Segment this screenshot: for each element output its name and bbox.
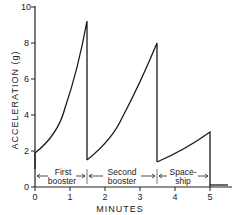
x-tick-label: 4 bbox=[172, 192, 177, 202]
x-tick-label: 0 bbox=[32, 192, 37, 202]
stage-label-second: booster bbox=[108, 176, 137, 186]
y-ticks: 0 2 4 6 8 10 bbox=[21, 2, 35, 192]
acceleration-curve bbox=[35, 21, 228, 187]
y-tick-label: 0 bbox=[24, 182, 29, 192]
y-tick-label: 6 bbox=[24, 74, 29, 84]
acceleration-chart: 0 2 4 6 8 10 0 1 2 3 4 5 MINUTES ACCELER… bbox=[0, 0, 243, 215]
first-booster-curve bbox=[35, 21, 87, 169]
x-ticks: 0 1 2 3 4 5 bbox=[32, 187, 212, 202]
stage-label-spaceship: ship bbox=[175, 176, 191, 186]
second-booster-curve bbox=[87, 43, 157, 162]
x-axis-label: MINUTES bbox=[96, 204, 144, 214]
y-tick-label: 8 bbox=[24, 38, 29, 48]
x-tick-label: 5 bbox=[207, 192, 212, 202]
stage-label-first: booster bbox=[48, 176, 77, 186]
x-tick-label: 3 bbox=[137, 192, 142, 202]
x-tick-label: 2 bbox=[102, 192, 107, 202]
y-axis-label: ACCELERATION (g) bbox=[10, 51, 20, 150]
x-tick-label: 1 bbox=[67, 192, 72, 202]
y-tick-label: 10 bbox=[21, 2, 31, 12]
y-tick-label: 2 bbox=[24, 146, 29, 156]
stage-annotations: First booster Second booster Space- ship bbox=[37, 167, 208, 186]
y-tick-label: 4 bbox=[24, 110, 29, 120]
